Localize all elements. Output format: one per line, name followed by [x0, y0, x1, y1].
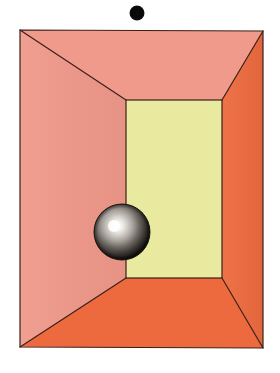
- perspective-room-drawing: [0, 0, 280, 373]
- floating-black-dot: [130, 6, 145, 21]
- illustration-canvas: [0, 0, 280, 373]
- sphere-group: [94, 204, 150, 260]
- sphere-highlight: [108, 220, 120, 232]
